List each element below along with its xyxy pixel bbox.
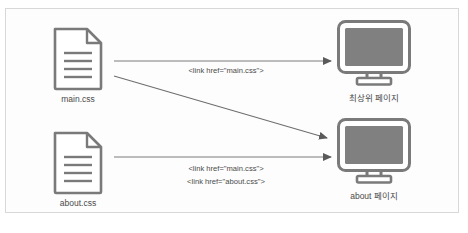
label-about-css: about.css [18,198,138,208]
edge-label-about-line2: <link href="about.css"> [163,176,289,188]
edge-label-about-line1: <link href="main.css"> [163,163,289,175]
edge-label-main-to-top: <link href="main.css"> [163,65,289,77]
label-main-css: main.css [18,94,138,104]
label-top-page: 최상위 페이지 [314,93,434,103]
diagram-canvas: main.css about.css 최상위 페이지 about 페이지 [0,0,468,233]
monitor-icon-top-page [336,19,412,87]
document-icon-main-css [51,26,105,92]
monitor-icon-about-page [336,117,412,185]
label-about-page: about 페이지 [314,191,434,201]
document-icon-about-css [51,130,105,196]
